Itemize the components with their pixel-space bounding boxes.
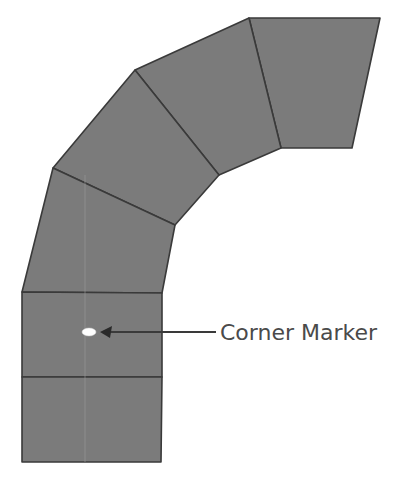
track-segment-6: [22, 377, 162, 462]
corner-marker-label: Corner Marker: [220, 320, 378, 345]
corner-marker-dot: [82, 328, 96, 336]
curved-track-diagram: Corner Marker: [0, 0, 403, 483]
track-segments: [22, 18, 380, 462]
